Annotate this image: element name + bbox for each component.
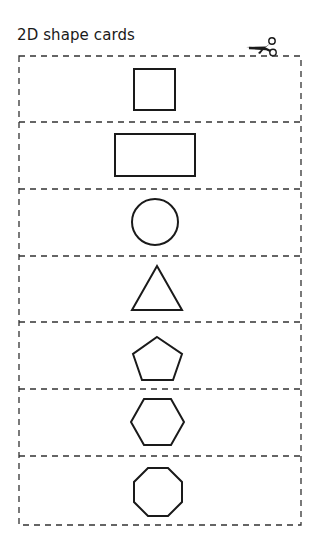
card-triangle[interactable] bbox=[18, 256, 302, 322]
hexagon-shape-icon bbox=[18, 389, 302, 456]
card-circle[interactable] bbox=[18, 189, 302, 256]
circle-shape-icon bbox=[18, 189, 302, 256]
octagon-shape-icon bbox=[18, 456, 302, 525]
card-octagon[interactable] bbox=[18, 456, 302, 525]
page-title: 2D shape cards bbox=[17, 26, 135, 44]
rectangle-shape-icon bbox=[18, 122, 302, 189]
card-hexagon[interactable] bbox=[18, 389, 302, 456]
square-shape-icon bbox=[18, 55, 302, 122]
card-square[interactable] bbox=[18, 55, 302, 122]
cut-out-sheet bbox=[18, 55, 302, 525]
card-rectangle[interactable] bbox=[18, 122, 302, 189]
triangle-shape-icon bbox=[18, 256, 302, 322]
pentagon-shape-icon bbox=[18, 322, 302, 389]
card-pentagon[interactable] bbox=[18, 322, 302, 389]
